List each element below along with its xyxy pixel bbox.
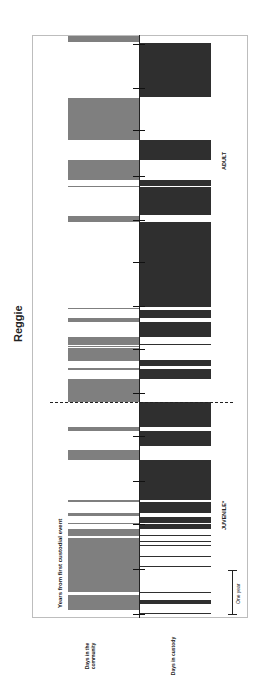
time-axis xyxy=(139,35,140,618)
one-year-scale-bar xyxy=(232,570,233,614)
axis-tick xyxy=(133,481,145,482)
juvenile-adult-divider xyxy=(50,402,233,403)
custody-bar xyxy=(140,524,211,529)
community-bar xyxy=(68,500,139,502)
custody-bar xyxy=(140,502,211,513)
community-bar xyxy=(68,595,139,610)
axis-tick xyxy=(133,614,145,615)
community-bar xyxy=(68,216,139,222)
custody-bar xyxy=(140,43,211,97)
community-bar xyxy=(68,379,139,402)
axis-tick xyxy=(133,436,145,437)
one-year-cap-top xyxy=(228,570,237,571)
community-bar xyxy=(68,523,139,524)
community-bar xyxy=(68,337,139,345)
custody-bar xyxy=(140,187,211,215)
community-bar xyxy=(68,555,139,556)
community-bar xyxy=(68,98,139,140)
axis-tick xyxy=(133,306,145,307)
axis-tick xyxy=(133,524,145,525)
axis-tick xyxy=(133,569,145,570)
axis-tick xyxy=(133,220,145,221)
legend-community: Days in the community xyxy=(84,634,96,678)
custody-bar xyxy=(140,545,211,546)
custody-bar xyxy=(140,517,211,523)
community-bar xyxy=(68,584,139,585)
community-bar xyxy=(68,450,139,460)
community-bar xyxy=(68,318,139,322)
custody-bar xyxy=(140,431,211,446)
x-axis-label: Years from first custodial event xyxy=(57,519,63,608)
custody-bar xyxy=(140,600,211,604)
community-bar xyxy=(68,529,139,536)
custody-bar xyxy=(140,460,211,500)
custody-bar xyxy=(140,180,211,186)
community-bar xyxy=(68,368,139,370)
axis-tick xyxy=(133,393,145,394)
custody-bar xyxy=(140,592,211,593)
axis-tick xyxy=(133,88,145,89)
period-label-juvenile: JUVENILE* xyxy=(221,501,227,530)
community-bar xyxy=(68,513,139,516)
community-bar xyxy=(68,427,139,431)
custody-bar xyxy=(140,541,211,542)
community-bar xyxy=(68,346,139,347)
axis-tick xyxy=(133,262,145,263)
custody-bar xyxy=(140,140,211,160)
community-bar xyxy=(68,308,139,309)
community-bar xyxy=(68,348,139,361)
legend-custody: Days in custody xyxy=(170,634,176,678)
custody-bar xyxy=(140,310,211,318)
axis-tick xyxy=(133,44,145,45)
community-bar xyxy=(68,186,139,187)
custody-bar xyxy=(140,556,211,557)
one-year-label: One year xyxy=(235,583,241,604)
axis-tick xyxy=(133,176,145,177)
community-bar xyxy=(68,36,139,42)
custody-bar xyxy=(140,360,211,366)
period-label-adult: ADULT xyxy=(221,152,227,170)
custody-bar xyxy=(140,222,211,307)
custody-bar xyxy=(140,613,211,614)
chart-title: Reggie xyxy=(12,305,24,342)
custody-bar xyxy=(140,344,211,345)
axis-tick xyxy=(133,130,145,131)
axis-tick xyxy=(133,349,145,350)
one-year-cap-bottom xyxy=(228,614,237,615)
custody-bar xyxy=(140,566,211,567)
custody-bar xyxy=(140,369,211,379)
community-bar xyxy=(68,160,139,180)
custody-bar xyxy=(140,322,211,337)
custody-bar xyxy=(140,535,211,536)
custody-bar xyxy=(140,402,211,427)
